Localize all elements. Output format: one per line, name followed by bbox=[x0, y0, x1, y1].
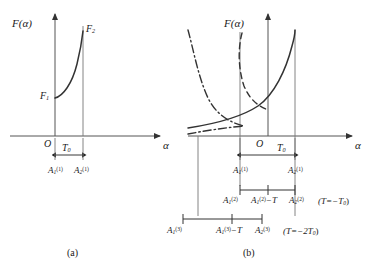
panel-b-row2-label-a2: A2(2) bbox=[289, 196, 304, 206]
panel-a-curve bbox=[55, 31, 83, 98]
panel-b-row2-condition: (T=−T0) bbox=[318, 197, 349, 207]
panel-b-row3-condition: (T=−2T0) bbox=[283, 227, 318, 237]
panel-b-curve-dashed bbox=[239, 33, 268, 110]
panel-b-row2-label-a1: A1(2) bbox=[223, 196, 238, 206]
panel-a-graph bbox=[10, 14, 160, 160]
panel-a-curve-label-f1: F1 bbox=[40, 91, 49, 102]
panel-a-curve-label-f2: F2 bbox=[86, 24, 95, 35]
panel-b-bracket-row2 bbox=[240, 185, 295, 195]
panel-b-row1-label-a1: A1(1) bbox=[233, 166, 248, 176]
panel-b-row1-label-a2: A2(1) bbox=[288, 166, 303, 176]
panel-a-tick-label-a1: A1(1) bbox=[48, 166, 63, 176]
panel-b-x-axis-label: α bbox=[355, 140, 361, 151]
panel-a-interval-label: T0 bbox=[62, 143, 71, 154]
panel-a-origin-label: O bbox=[44, 139, 51, 149]
panel-b-row3-label-a1: A1(3) bbox=[167, 226, 182, 236]
panel-a-tick-label-a2: A2(1) bbox=[74, 166, 89, 176]
panel-a-y-axis-label: F(α) bbox=[12, 18, 32, 29]
figure-vector-layer bbox=[0, 0, 376, 278]
panel-b-row2-label-a1-minus-t: A1(2)−T bbox=[251, 196, 277, 206]
panel-b-interval-label: T0 bbox=[277, 143, 286, 154]
figure-container: F(α) α O F1 F2 T0 A1(1) A2(1) (a) F(α) α… bbox=[0, 0, 376, 278]
panel-a-caption: (a) bbox=[67, 248, 78, 258]
panel-b-curve-dashdot bbox=[188, 30, 244, 126]
panel-a-x-axis-label: α bbox=[163, 140, 169, 151]
panel-b-bracket-row3 bbox=[183, 214, 262, 224]
panel-b-y-axis-label: F(α) bbox=[224, 18, 244, 29]
panel-b-origin-label: O bbox=[256, 139, 263, 149]
panel-b-row3-label-a2: A2(3) bbox=[255, 226, 270, 236]
panel-b-graph bbox=[183, 14, 352, 224]
panel-b-caption: (b) bbox=[243, 248, 255, 258]
panel-b-row3-label-a1-minus-t: A1(3)−T bbox=[216, 226, 242, 236]
